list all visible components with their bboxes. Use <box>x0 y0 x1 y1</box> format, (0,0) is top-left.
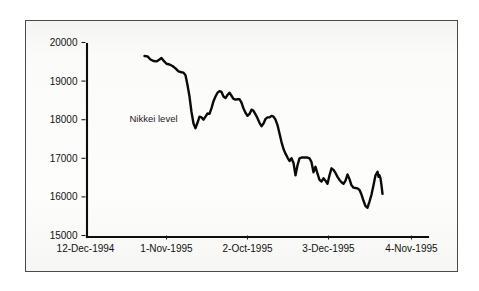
x-tick-label: 1-Nov-1995 <box>140 243 193 254</box>
x-tick-label: 4-Nov-1995 <box>385 243 438 254</box>
y-tick-label: 19000 <box>50 76 78 87</box>
x-tick-label: 3-Dec-1995 <box>302 243 355 254</box>
y-tick-labels: 150001600017000180001900020000 <box>50 37 78 241</box>
figure-root: 150001600017000180001900020000 12-Dec-19… <box>0 0 479 291</box>
nikkei-line-chart: 150001600017000180001900020000 12-Dec-19… <box>26 21 459 273</box>
chart-annotations: Nikkei level <box>130 113 178 124</box>
y-tick-label: 18000 <box>50 114 78 125</box>
data-series-nikkei-level <box>145 56 383 208</box>
y-tick-label: 15000 <box>50 230 78 241</box>
x-tick-labels: 12-Dec-19941-Nov-19952-Oct-19953-Dec-199… <box>57 243 438 254</box>
y-tick-label: 20000 <box>50 37 78 48</box>
y-tick-label: 17000 <box>50 153 78 164</box>
y-tick-marks <box>82 43 86 236</box>
x-tick-label: 12-Dec-1994 <box>57 243 115 254</box>
series-label-annotation: Nikkei level <box>130 113 178 124</box>
x-tick-label: 2-Oct-1995 <box>222 243 272 254</box>
y-tick-label: 16000 <box>50 191 78 202</box>
chart-frame: 150001600017000180001900020000 12-Dec-19… <box>25 20 458 272</box>
